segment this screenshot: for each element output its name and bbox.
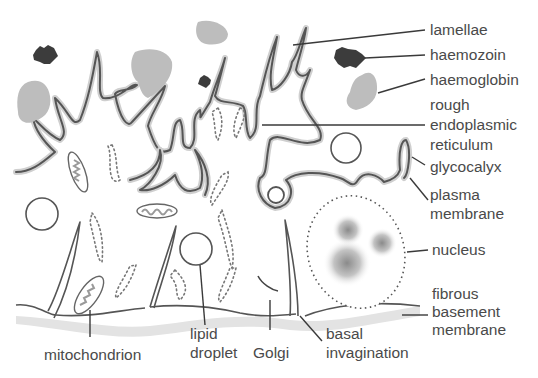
- label-basal-invagination-2: invagination: [326, 344, 409, 361]
- golgi: [258, 276, 278, 291]
- label-fbm-2: basement: [432, 303, 501, 320]
- label-haemoglobin: haemoglobin: [430, 71, 519, 88]
- haemozoin-crystals: [33, 45, 366, 88]
- label-haemozoin: haemozoin: [430, 46, 506, 63]
- label-plasma-membrane-1: plasma: [430, 186, 480, 203]
- label-rer-3: reticulum: [430, 136, 493, 153]
- label-lipid-droplet-1: lipid: [190, 325, 218, 342]
- haemoglobin-particles: [17, 21, 377, 123]
- label-fbm-1: fibrous: [432, 285, 479, 302]
- label-lipid-droplet-2: droplet: [190, 344, 238, 361]
- cell-diagram: lamellae haemozoin haemoglobin rough end…: [0, 0, 538, 378]
- label-golgi: Golgi: [253, 344, 289, 361]
- nucleus: [293, 183, 420, 321]
- label-rer-1: rough: [430, 96, 470, 113]
- label-basal-invagination-1: basal: [326, 325, 363, 342]
- label-rer-2: endoplasmic: [430, 116, 517, 133]
- label-fbm-3: membrane: [432, 321, 506, 338]
- label-glycocalyx: glycocalyx: [430, 158, 502, 175]
- label-mitochondrion: mitochondrion: [44, 346, 141, 363]
- label-plasma-membrane-2: membrane: [430, 205, 504, 222]
- label-nucleus: nucleus: [432, 241, 486, 258]
- label-lamellae: lamellae: [430, 21, 488, 38]
